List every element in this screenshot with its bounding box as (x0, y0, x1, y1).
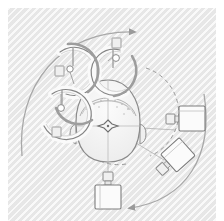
dot-marker-3 (58, 105, 65, 112)
camera-bottom (95, 172, 121, 209)
camera-right-lower (151, 138, 195, 181)
square-marker-2 (55, 66, 64, 76)
dot-marker-1 (113, 55, 120, 62)
square-marker-1 (112, 38, 121, 48)
figure-panel (8, 8, 216, 221)
square-marker-3 (52, 127, 61, 137)
diagram-artwork (8, 8, 216, 221)
camera-right-upper (166, 106, 205, 131)
figure-canvas (0, 0, 224, 221)
dot-marker-2 (67, 66, 73, 72)
